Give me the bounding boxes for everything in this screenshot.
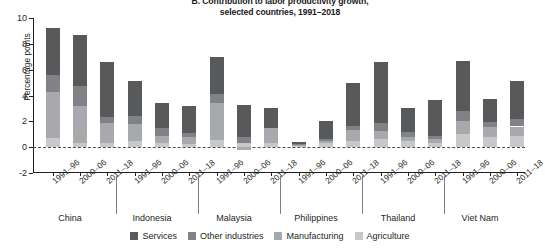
legend-label: Services [142,231,177,241]
legend-item[interactable]: Manufacturing [274,231,343,241]
bar-segment [128,116,142,124]
country-label: Thailand [357,213,439,223]
bar-segment [374,139,388,147]
bar-segment [237,105,251,137]
bar-segment [128,141,142,147]
bar-segment [374,62,388,123]
bar-segment [210,94,224,104]
bar-segment [155,143,169,147]
bar-segment [346,83,360,126]
bar-segment [155,128,169,135]
bar-segment [73,143,87,148]
bar-segment [510,81,524,119]
bar-segment [210,103,224,140]
bar-segment [401,137,415,142]
bar-segment [401,108,415,132]
country-label: Viet Nam [439,213,521,223]
bar-stack [264,18,278,173]
legend-label: Other industries [200,231,264,241]
y-tick-label: 10 [17,13,27,23]
bar-stack [100,18,114,173]
bar-segment [100,117,114,122]
y-tick-label: 6 [22,65,27,75]
y-tick-mark [29,121,33,122]
y-tick-mark [29,173,33,174]
bar-segment [346,126,360,131]
bar-segment [483,127,497,137]
y-tick-label: 0 [22,142,27,152]
country-separator [280,176,281,214]
bar-segment [319,143,333,147]
bar-stack [483,18,497,173]
y-tick-mark [29,96,33,97]
bar-segment [100,62,114,118]
bar-stack [128,18,142,173]
bar-segment [428,143,442,148]
plot-area: 1086420-2 [33,18,525,173]
y-tick-label: -2 [19,168,27,178]
bar-segment [100,143,114,148]
chart-title-line-1: B. Contribution to labor productivity gr… [120,0,440,7]
bar-segment [46,75,60,92]
bar-segment [73,106,87,143]
bar-segment [456,111,470,121]
bar-stack [292,18,306,173]
bar-segment [210,140,224,147]
y-tick-mark [29,44,33,45]
bar-stack [237,18,251,173]
chart-title-line-2: selected countries, 1991–2018 [120,7,440,18]
bar-segment [182,106,196,133]
legend-swatch-icon [130,232,138,240]
bar-segment [73,86,87,105]
bar-stack [73,18,87,173]
bar-stack [428,18,442,173]
bar-stack [401,18,415,173]
bar-segment [346,130,360,141]
country-separator [116,176,117,214]
bar-segment [346,141,360,147]
bar-segment [237,147,251,150]
y-tick-mark [29,18,33,19]
plot-inner [33,18,525,173]
bar-segment [210,57,224,94]
y-tick-mark [29,70,33,71]
bar-segment [128,81,142,116]
bar-stack [510,18,524,173]
bar-segment [264,128,278,143]
legend-item[interactable]: Services [130,231,177,241]
y-tick-label: 8 [22,39,27,49]
bar-segment [319,141,333,143]
bar-segment [292,146,306,147]
bar-segment [292,145,306,146]
legend-swatch-icon [355,232,363,240]
bar-segment [46,28,60,75]
bar-segment [456,61,470,111]
bar-segment [374,131,388,139]
country-label: Indonesia [111,213,193,223]
bar-segment [319,121,333,138]
bar-stack [46,18,60,173]
legend-item[interactable]: Agriculture [355,231,410,241]
bar-segment [510,127,524,137]
chart-title: B. Contribution to labor productivity gr… [120,0,440,18]
y-tick-mark [29,147,33,148]
country-label: Malaysia [193,213,275,223]
bar-stack [319,18,333,173]
bar-segment [292,142,306,144]
legend-item[interactable]: Other industries [188,231,264,241]
bar-stack [155,18,169,173]
bar-stack [374,18,388,173]
bar-segment [155,103,169,128]
bar-stack [346,18,360,173]
country-separator [198,176,199,214]
y-tick-label: 4 [22,91,27,101]
bar-segment [182,133,196,137]
country-label: China [29,213,111,223]
y-tick-label: 2 [22,116,27,126]
bar-segment [483,137,497,147]
bar-segment [483,99,497,122]
bar-segment [46,138,60,147]
bar-stack [210,18,224,173]
bar-segment [483,122,497,127]
